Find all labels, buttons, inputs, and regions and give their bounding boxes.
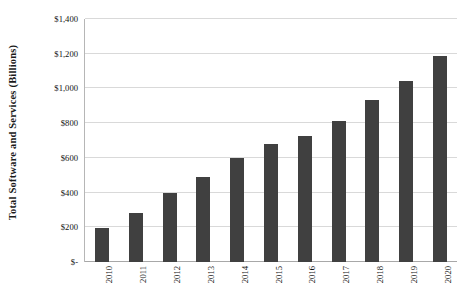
plot-area: [84, 19, 457, 262]
x-tick-label: 2016: [307, 266, 317, 283]
x-tick-label: 2019: [409, 266, 419, 283]
y-tick-label: $1,200: [54, 49, 78, 59]
x-tick-label: 2010: [104, 266, 114, 283]
x-tick-label: 2011: [138, 266, 148, 283]
x-tick-label: 2015: [274, 266, 284, 283]
x-tick-label: 2020: [443, 266, 453, 283]
x-tick-label: 2014: [240, 266, 250, 283]
bar: [365, 100, 379, 262]
bar: [298, 136, 312, 262]
bar: [95, 228, 109, 262]
y-tick-label: $200: [61, 222, 78, 232]
y-axis-tick-labels: $-$200$400$600$800$1,000$1,200$1,400: [26, 0, 82, 305]
bar: [399, 81, 413, 262]
y-tick-label: $600: [61, 153, 78, 163]
y-tick-label: $1,000: [54, 83, 78, 93]
bar: [433, 56, 447, 262]
bar-series: [85, 19, 457, 262]
y-tick-label: $800: [61, 118, 78, 128]
bar: [230, 158, 244, 262]
y-tick-label: $-: [71, 257, 78, 267]
x-tick-label: 2012: [172, 266, 182, 283]
y-axis-title: Total Software and Services (Billions): [0, 0, 26, 265]
bar: [264, 144, 278, 262]
x-tick-label: 2017: [341, 266, 351, 283]
bar: [332, 121, 346, 262]
bar: [129, 213, 143, 262]
bar-chart: Total Software and Services (Billions) $…: [0, 0, 464, 305]
x-axis-tick-labels: 2010201120122013201420152016201720182019…: [84, 262, 456, 305]
bar: [196, 177, 210, 262]
x-tick-label: 2018: [375, 266, 385, 283]
bar: [163, 193, 177, 262]
x-tick-label: 2013: [206, 266, 216, 283]
y-tick-label: $400: [61, 188, 78, 198]
y-tick-label: $1,400: [54, 14, 78, 24]
y-axis-title-text: Total Software and Services (Billions): [8, 45, 19, 221]
